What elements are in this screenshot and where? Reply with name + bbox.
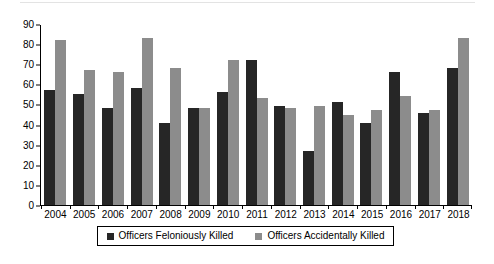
bar — [188, 108, 199, 205]
bar — [217, 92, 228, 205]
y-axis-tick-mark — [36, 185, 40, 186]
bar — [400, 96, 411, 205]
bar — [55, 40, 66, 205]
legend-swatch-icon-feloniously — [107, 233, 114, 240]
x-axis-tick-label: 2004 — [41, 207, 70, 223]
y-axis-tick-mark — [36, 25, 40, 26]
x-axis-tick-label: 2013 — [300, 207, 329, 223]
legend-label-accidentally: Officers Accidentally Killed — [267, 231, 384, 241]
bar-group — [41, 25, 70, 205]
bar-group — [271, 25, 300, 205]
bar-group — [70, 25, 99, 205]
x-axis-tick-label: 2006 — [99, 207, 128, 223]
y-axis-tick-mark — [36, 105, 40, 106]
bar — [142, 38, 153, 205]
bar — [360, 123, 371, 205]
y-axis-tick-label: 20 — [23, 161, 34, 171]
y-axis-tick-label: 0 — [28, 201, 34, 211]
bar — [458, 38, 469, 205]
x-axis-labels: 2004200520062007200820092010201120122013… — [41, 207, 473, 223]
bar-group — [127, 25, 156, 205]
legend-entry-feloniously: Officers Feloniously Killed — [107, 231, 234, 241]
x-axis-tick-label: 2010 — [214, 207, 243, 223]
bar-group — [357, 25, 386, 205]
y-axis-tick-mark — [36, 165, 40, 166]
y-axis-tick-label: 90 — [23, 20, 34, 30]
y-axis-tick-label: 50 — [23, 100, 34, 110]
x-axis-tick-label: 2011 — [243, 207, 272, 223]
bar — [447, 68, 458, 205]
x-axis-line — [40, 205, 472, 206]
y-axis-tick-label: 40 — [23, 121, 34, 131]
plot-area: 0102030405060708090 — [40, 25, 472, 206]
bar — [44, 90, 55, 205]
bar — [228, 60, 239, 205]
bar-group — [300, 25, 329, 205]
bar-group — [156, 25, 185, 205]
bar — [371, 110, 382, 205]
y-axis-tick-mark — [36, 145, 40, 146]
bar-group — [185, 25, 214, 205]
y-axis-tick-label: 80 — [23, 40, 34, 50]
bar — [199, 108, 210, 205]
y-axis-tick-label: 70 — [23, 60, 34, 70]
y-axis-tick-mark — [36, 206, 40, 207]
bar — [285, 108, 296, 205]
legend-swatch-icon-accidentally — [255, 233, 262, 240]
chart-legend: Officers Feloniously Killed Officers Acc… — [97, 226, 394, 246]
bar — [159, 123, 170, 205]
bar-group — [98, 25, 127, 205]
bar — [389, 72, 400, 205]
x-axis-tick-label: 2009 — [185, 207, 214, 223]
bar-group — [242, 25, 271, 205]
x-axis-tick-label: 2008 — [156, 207, 185, 223]
x-axis-tick-label: 2012 — [271, 207, 300, 223]
bar-group — [328, 25, 357, 205]
bar — [73, 94, 84, 205]
bar — [170, 68, 181, 205]
bars-layer — [41, 25, 472, 205]
x-axis-tick-label: 2016 — [387, 207, 416, 223]
x-axis-tick-label: 2005 — [70, 207, 99, 223]
x-axis-tick-label: 2007 — [127, 207, 156, 223]
bar — [257, 98, 268, 205]
y-axis-tick-label: 60 — [23, 80, 34, 90]
legend-entry-accidentally: Officers Accidentally Killed — [255, 231, 384, 241]
bar — [102, 108, 113, 205]
x-axis-tick-label: 2018 — [444, 207, 473, 223]
legend-label-feloniously: Officers Feloniously Killed — [119, 231, 234, 241]
bar — [429, 110, 440, 205]
y-axis-tick-label: 30 — [23, 141, 34, 151]
bar-group — [213, 25, 242, 205]
x-axis-tick-label: 2014 — [329, 207, 358, 223]
bar — [343, 115, 354, 206]
bar — [314, 106, 325, 205]
bar — [332, 102, 343, 205]
bar — [303, 151, 314, 205]
bar — [274, 106, 285, 205]
bar-group — [386, 25, 415, 205]
x-axis-tick-label: 2017 — [415, 207, 444, 223]
bar — [131, 88, 142, 205]
x-axis-tick-label: 2015 — [358, 207, 387, 223]
y-axis-tick-mark — [36, 65, 40, 66]
bar-group — [415, 25, 444, 205]
top-divider — [20, 2, 475, 3]
y-axis-tick-label: 10 — [23, 181, 34, 191]
y-axis-tick-mark — [36, 125, 40, 126]
bar — [113, 72, 124, 205]
bar — [418, 113, 429, 206]
bar — [246, 60, 257, 205]
bar — [84, 70, 95, 205]
bar-chart: 0102030405060708090 20042005200620072008… — [0, 0, 494, 264]
y-axis-tick-mark — [36, 85, 40, 86]
y-axis-tick-mark — [36, 45, 40, 46]
bar-group — [443, 25, 472, 205]
